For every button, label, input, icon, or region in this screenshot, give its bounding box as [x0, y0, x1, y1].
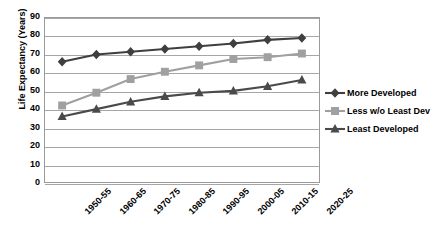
series-less-w-o-least-dev [58, 50, 306, 110]
data-point-marker [161, 68, 169, 76]
x-axis-tick-label: 1970-75 [152, 186, 182, 216]
y-axis-tick-label: 90 [2, 12, 40, 21]
data-point-marker [263, 35, 272, 44]
data-point-marker [229, 55, 237, 63]
data-point-marker [161, 44, 170, 53]
legend-item: Less w/o Least Dev [324, 103, 440, 119]
data-point-marker [298, 50, 306, 58]
legend-item-label: Least Developed [347, 124, 419, 134]
data-point-marker [331, 107, 339, 115]
series-more-developed [58, 33, 306, 66]
data-point-marker [229, 39, 238, 48]
data-point-marker [58, 57, 67, 66]
plot-area [44, 17, 320, 183]
y-axis-tick-label: 10 [2, 160, 40, 169]
legend: More DevelopedLess w/o Least DevLeast De… [324, 85, 440, 139]
series-layer [45, 18, 319, 182]
series-line [62, 54, 302, 106]
legend-item-label: Less w/o Least Dev [347, 106, 430, 116]
data-point-marker [264, 53, 272, 61]
x-axis-tick-label: 2000-05 [255, 186, 285, 216]
data-point-marker [297, 75, 306, 83]
legend-item: More Developed [324, 85, 440, 101]
y-axis-tick-labels: 9080706050403020100 [0, 17, 40, 183]
y-axis-tick-label: 80 [2, 30, 40, 39]
y-axis-tick-label: 20 [2, 141, 40, 150]
legend-marker-triangle-icon [324, 122, 346, 136]
x-axis-tick-label: 2010-15 [290, 186, 320, 216]
data-point-marker [195, 42, 204, 51]
data-point-marker [92, 50, 101, 59]
legend-marker-diamond-icon [324, 86, 346, 100]
data-point-marker [58, 102, 66, 110]
x-axis-tick-labels: 1950-551960-651970-751980-851990-952000-… [44, 184, 320, 244]
x-axis-tick-label: 2020-25 [324, 186, 354, 216]
legend-marker-square-icon [324, 104, 346, 118]
data-point-marker [92, 89, 100, 97]
y-axis-tick-label: 70 [2, 49, 40, 58]
data-point-marker [195, 61, 203, 69]
data-point-marker [331, 88, 340, 98]
x-axis-tick-label: 1980-85 [186, 186, 216, 216]
x-axis-tick-label: 1960-65 [117, 186, 147, 216]
y-axis-tick-label: 60 [2, 67, 40, 76]
y-axis-tick-label: 40 [2, 104, 40, 113]
data-point-marker [298, 33, 307, 42]
x-axis-tick-label: 1950-55 [83, 186, 113, 216]
data-point-marker [126, 47, 135, 56]
x-axis-tick-label: 1990-95 [221, 186, 251, 216]
legend-item: Least Developed [324, 121, 440, 137]
y-axis-tick-label: 0 [2, 178, 40, 187]
series-least-developed [58, 75, 307, 120]
data-point-marker [127, 75, 135, 83]
y-axis-tick-label: 50 [2, 86, 40, 95]
legend-item-label: More Developed [347, 88, 417, 98]
y-axis-tick-label: 30 [2, 123, 40, 132]
line-chart: Life Expectancy (Years) 9080706050403020… [0, 0, 442, 245]
